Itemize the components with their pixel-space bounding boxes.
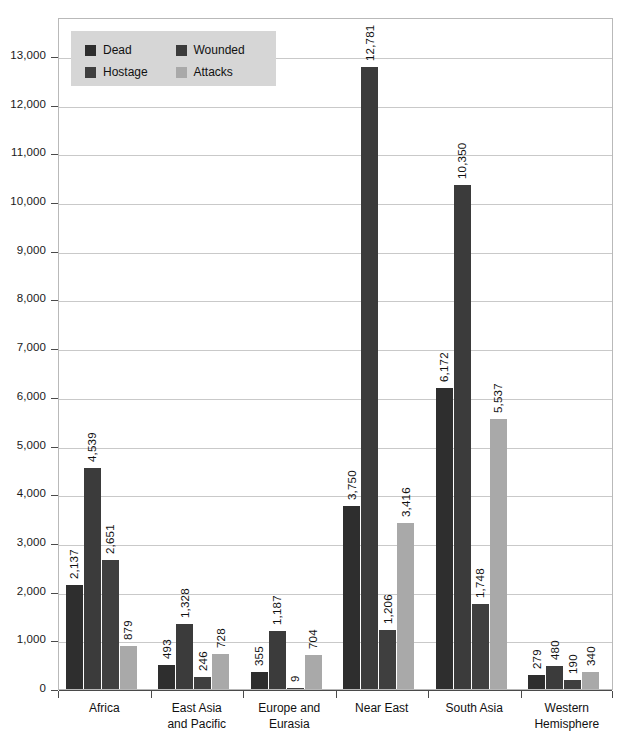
x-axis-category-line: Europe and [243, 700, 336, 716]
y-axis-tick-label: 7,000 [0, 341, 46, 353]
bar-group: 279480190340 [59, 19, 614, 689]
legend-label-dead: Dead [103, 43, 132, 57]
x-axis-category-africa: Africa [58, 700, 151, 716]
x-axis-category-east-asia-and-pacific: East Asiaand Pacific [151, 700, 244, 732]
x-axis-category-line: and Pacific [151, 716, 244, 732]
legend-item-wounded: Wounded [176, 43, 267, 57]
y-axis-tick-mark [51, 495, 58, 496]
x-axis-tick-mark [151, 691, 152, 698]
y-axis-tick-label: 4,000 [0, 487, 46, 499]
y-axis-tick-label: 9,000 [0, 244, 46, 256]
bar-value-label: 279 [530, 650, 542, 670]
y-axis-tick-mark [51, 300, 58, 301]
legend-item-attacks: Attacks [176, 65, 267, 79]
legend-item-hostage: Hostage [85, 65, 176, 79]
plot-area: 2,1374,5392,6518794931,3282467283551,187… [58, 18, 613, 690]
y-axis-tick-mark [51, 690, 58, 691]
y-axis-tick-label: 2,000 [0, 585, 46, 597]
y-axis-tick-label: 3,000 [0, 536, 46, 548]
plot-inner: 2,1374,5392,6518794931,3282467283551,187… [59, 19, 612, 689]
bar-value-label: 480 [548, 640, 560, 660]
x-axis-category-line: South Asia [428, 700, 521, 716]
legend-row: Dead Wounded [85, 39, 266, 61]
legend-label-hostage: Hostage [103, 65, 148, 79]
legend-swatch-wounded [176, 45, 187, 56]
y-axis-tick-label: 13,000 [0, 49, 46, 61]
y-axis-tick-mark [51, 57, 58, 58]
x-axis-tick-mark [428, 691, 429, 698]
bar-dead-western-hemisphere: 279 [528, 675, 545, 689]
y-axis-tick-mark [51, 544, 58, 545]
y-axis-tick-label: 12,000 [0, 98, 46, 110]
x-axis-category-line: Hemisphere [521, 716, 614, 732]
legend-label-attacks: Attacks [194, 65, 233, 79]
x-axis-category-line: Africa [58, 700, 151, 716]
y-axis-tick-label: 11,000 [0, 146, 46, 158]
x-axis-category-near-east: Near East [336, 700, 429, 716]
x-axis-category-line: East Asia [151, 700, 244, 716]
y-axis-tick-label: 10,000 [0, 195, 46, 207]
x-axis-category-line: Near East [336, 700, 429, 716]
x-axis-category-south-asia: South Asia [428, 700, 521, 716]
y-axis-tick-label: 0 [0, 682, 46, 694]
x-axis-category-europe-and-eurasia: Europe andEurasia [243, 700, 336, 732]
bar-hostage-western-hemisphere: 190 [564, 680, 581, 689]
y-axis-tick-mark [51, 641, 58, 642]
x-axis-category-line: Western [521, 700, 614, 716]
legend-swatch-hostage [85, 67, 96, 78]
y-axis-tick-mark [51, 593, 58, 594]
y-axis-tick-mark [51, 203, 58, 204]
x-axis-tick-mark [521, 691, 522, 698]
y-axis-tick-label: 6,000 [0, 390, 46, 402]
x-axis-tick-mark [243, 691, 244, 698]
y-axis-tick-mark [51, 252, 58, 253]
y-axis-tick-mark [51, 447, 58, 448]
x-axis-category-line: Eurasia [243, 716, 336, 732]
x-axis-tick-mark [58, 691, 59, 698]
x-axis-tick-mark [336, 691, 337, 698]
legend-item-dead: Dead [85, 43, 176, 57]
y-axis-tick-mark [51, 106, 58, 107]
y-axis-tick-mark [51, 349, 58, 350]
y-axis-tick-mark [51, 398, 58, 399]
y-axis-tick-label: 1,000 [0, 633, 46, 645]
legend: Dead Wounded Hostage Attacks [71, 31, 276, 86]
bar-value-label: 190 [566, 654, 578, 674]
bar-value-label: 340 [584, 647, 596, 667]
x-axis-category-western-hemisphere: WesternHemisphere [521, 700, 614, 732]
legend-row: Hostage Attacks [85, 61, 266, 83]
y-axis-tick-label: 8,000 [0, 292, 46, 304]
legend-swatch-dead [85, 45, 96, 56]
legend-label-wounded: Wounded [194, 43, 245, 57]
bar-wounded-western-hemisphere: 480 [546, 666, 563, 689]
bar-attacks-western-hemisphere: 340 [582, 672, 599, 689]
legend-swatch-attacks [176, 67, 187, 78]
y-axis-tick-label: 5,000 [0, 439, 46, 451]
bar-chart: 01,0002,0003,0004,0005,0006,0007,0008,00… [0, 0, 630, 752]
y-axis-tick-mark [51, 154, 58, 155]
x-axis-tick-mark [612, 691, 613, 698]
